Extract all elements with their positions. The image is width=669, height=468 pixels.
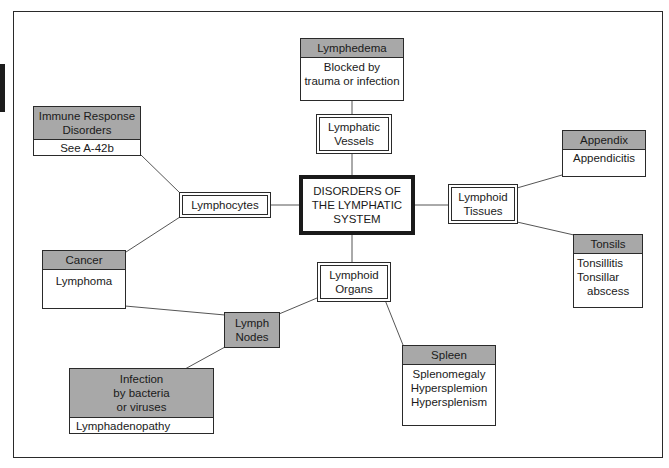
immune-header-line: Disorders — [36, 123, 138, 137]
center-title-line: THE LYMPHATIC — [312, 198, 402, 212]
appendix-header: Appendix — [563, 131, 645, 150]
node-label: Nodes — [235, 330, 268, 344]
cancer-header: Cancer — [43, 251, 125, 270]
tonsils-body-line: abscess — [577, 284, 639, 298]
lymphedema-body-line: Blocked by — [304, 60, 400, 74]
node-label: Lymphocytes — [191, 198, 258, 212]
infection-header-line: or viruses — [72, 400, 211, 414]
lymphedema-body-line: trauma or infection — [304, 74, 400, 88]
node-label: Lymphatic — [328, 120, 380, 134]
infection-body-line: Lymphadenopathy — [76, 419, 207, 433]
tonsils-card: Tonsils Tonsillitis Tonsillar abscess — [573, 234, 643, 308]
tonsils-body-line: Tonsillar — [577, 270, 639, 284]
node-label: Lymphoid — [329, 268, 378, 282]
immune-body-line: See A-42b — [37, 141, 137, 155]
lymphatic-vessels-node: Lymphatic Vessels — [316, 114, 392, 154]
tonsils-header: Tonsils — [574, 235, 642, 254]
infection-header-line: Infection — [72, 372, 211, 386]
appendix-body-line: Appendicitis — [566, 151, 642, 165]
center-node: DISORDERS OF THE LYMPHATIC SYSTEM — [299, 175, 415, 235]
spleen-header: Spleen — [403, 346, 495, 365]
lymphocytes-node: Lymphocytes — [179, 192, 271, 218]
lymphedema-card: Lymphedema Blocked by trauma or infectio… — [300, 38, 404, 101]
lymph-nodes-node: Lymph Nodes — [224, 312, 280, 348]
node-label: Vessels — [334, 134, 374, 148]
center-title-line: DISORDERS OF — [313, 184, 401, 198]
infection-card: Infection by bacteria or viruses Lymphad… — [69, 368, 214, 434]
center-title-line: SYSTEM — [333, 212, 380, 226]
infection-header-line: by bacteria — [72, 386, 211, 400]
spleen-card: Spleen Splenomegaly Hypersplemion Hypers… — [402, 345, 496, 426]
lymphedema-header: Lymphedema — [301, 39, 403, 58]
node-label: Lymphoid — [458, 190, 507, 204]
spleen-body-line: Hypersplemion — [406, 381, 492, 395]
cancer-card: Cancer Lymphoma — [42, 250, 126, 309]
node-label: Lymph — [235, 316, 269, 330]
tonsils-body-line: Tonsillitis — [577, 256, 639, 270]
immune-response-card: Immune Response Disorders See A-42b — [33, 106, 141, 156]
immune-header-line: Immune Response — [36, 109, 138, 123]
appendix-card: Appendix Appendicitis — [562, 130, 646, 177]
node-label: Tissues — [463, 204, 502, 218]
lymphoid-tissues-node: Lymphoid Tissues — [448, 184, 518, 224]
node-label: Organs — [335, 282, 373, 296]
cancer-body-line: Lymphoma — [46, 274, 122, 288]
spleen-body-line: Hypersplenism — [406, 395, 492, 409]
lymphoid-organs-node: Lymphoid Organs — [317, 262, 391, 302]
spleen-body-line: Splenomegaly — [406, 367, 492, 381]
